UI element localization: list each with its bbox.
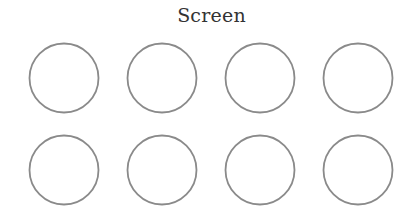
- seat-r1-c1[interactable]: [30, 44, 99, 113]
- seat-r2-c3[interactable]: [226, 136, 295, 205]
- seat-r1-c3[interactable]: [226, 44, 295, 113]
- seat-r1-c4[interactable]: [324, 44, 393, 113]
- seat-map: [0, 0, 406, 217]
- seat-r2-c1[interactable]: [30, 136, 99, 205]
- seat-r1-c2[interactable]: [128, 44, 197, 113]
- seat-r2-c2[interactable]: [128, 136, 197, 205]
- seat-r2-c4[interactable]: [324, 136, 393, 205]
